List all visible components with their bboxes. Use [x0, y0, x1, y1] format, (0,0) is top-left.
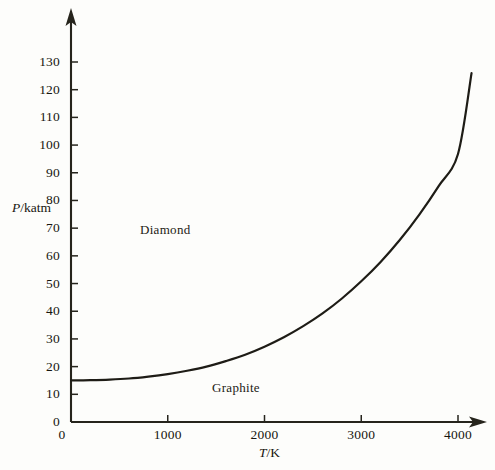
x-axis-title: T/K — [259, 445, 280, 461]
x-axis-tick-label: 3000 — [347, 427, 375, 443]
diamond-region-label: Diamond — [140, 222, 190, 238]
y-axis-tick-label: 90 — [18, 165, 60, 181]
y-axis-tick-label: 40 — [18, 303, 60, 319]
x-axis-title-unit: /K — [267, 445, 281, 460]
y-axis-tick-label: 120 — [18, 82, 60, 98]
y-axis-title-symbol: P — [12, 200, 20, 215]
y-axis-tick-label: 100 — [18, 137, 60, 153]
phase-diagram-figure: 0102030405060708090100110120130 01000200… — [0, 0, 495, 470]
y-axis-title: P/katm — [12, 200, 51, 216]
x-axis-title-symbol: T — [259, 445, 267, 460]
y-axis-tick-marks — [71, 62, 78, 394]
y-axis-tick-label: 110 — [18, 109, 60, 125]
plot-canvas — [0, 0, 495, 470]
x-axis-tick-label: 1000 — [154, 427, 182, 443]
y-axis-tick-label: 130 — [18, 54, 60, 70]
y-axis-tick-label: 70 — [18, 220, 60, 236]
y-axis-tick-label: 20 — [18, 359, 60, 375]
x-axis-tick-label: 2000 — [251, 427, 279, 443]
y-axis-tick-label: 30 — [18, 331, 60, 347]
x-axis-tick-label: 4000 — [444, 427, 472, 443]
y-axis-tick-label: 10 — [18, 386, 60, 402]
phase-boundary-curve — [71, 73, 472, 380]
graphite-region-label: Graphite — [212, 380, 260, 396]
y-axis-tick-label: 0 — [18, 414, 60, 430]
y-axis-title-unit: /katm — [20, 200, 51, 215]
axis-group — [66, 8, 488, 428]
y-axis-tick-label: 50 — [18, 276, 60, 292]
x-axis-tick-label: 0 — [59, 427, 66, 443]
y-axis-tick-label: 60 — [18, 248, 60, 264]
